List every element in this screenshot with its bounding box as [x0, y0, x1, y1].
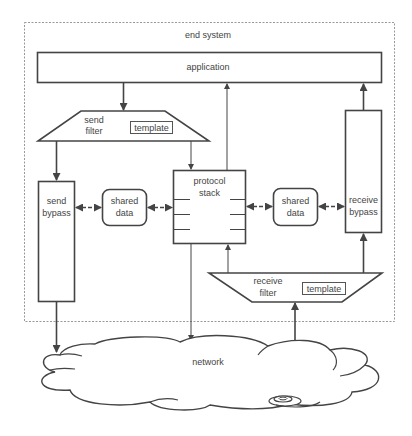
- send-bypass-box: send bypass: [39, 182, 75, 302]
- send-filter-label-1: send: [84, 115, 104, 125]
- receive-bypass-label-1: receive: [349, 195, 378, 205]
- diagram-canvas: end system application send filter templ…: [0, 0, 412, 436]
- shared-data-left: shared data: [103, 190, 147, 226]
- protocol-stack-box: protocol stack: [173, 171, 246, 244]
- send-filter: send filter template: [38, 111, 209, 141]
- send-bypass-label-2: bypass: [42, 208, 71, 218]
- receive-filter-label-1: receive: [253, 276, 282, 286]
- receive-filter: receive filter template: [209, 273, 382, 302]
- receive-bypass-label-2: bypass: [349, 207, 378, 217]
- protocol-stack-label-2: stack: [199, 188, 221, 198]
- application-label: application: [186, 62, 229, 72]
- receive-filter-label-2: filter: [259, 288, 276, 298]
- shared-data-right-label-2: data: [287, 208, 305, 218]
- shared-data-right: shared data: [274, 189, 318, 226]
- send-filter-label-2: filter: [85, 126, 102, 136]
- send-filter-template: template: [134, 123, 169, 133]
- protocol-stack-label-1: protocol: [193, 176, 225, 186]
- send-bypass-label-1: send: [47, 196, 67, 206]
- end-system-label: end system: [185, 30, 231, 40]
- receive-bypass-box: receive bypass: [346, 111, 382, 233]
- shared-data-right-label-1: shared: [282, 196, 310, 206]
- receive-filter-template: template: [307, 284, 342, 294]
- shared-data-left-label-1: shared: [111, 196, 139, 206]
- application-box: application: [38, 53, 382, 83]
- network-cloud: network: [42, 336, 379, 410]
- shared-data-left-label-2: data: [116, 208, 134, 218]
- network-label: network: [192, 357, 224, 367]
